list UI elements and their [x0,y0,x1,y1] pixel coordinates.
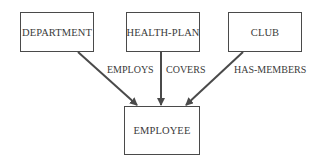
relationship-covers-label: COVERS [166,64,205,75]
edge-has-members [186,52,243,105]
entity-club-label: CLUB [251,27,279,38]
relationship-employs-label: EMPLOYS [107,64,154,75]
entity-club: CLUB [228,12,302,52]
relationship-has-members-label: HAS-MEMBERS [234,64,306,75]
entity-health-plan: HEALTH-PLAN [126,12,200,52]
entity-department-label: DEPARTMENT [22,27,92,38]
entity-department: DEPARTMENT [20,12,94,52]
entity-employee-label: EMPLOYEE [134,125,191,136]
entity-employee: EMPLOYEE [124,106,200,155]
entity-health-plan-label: HEALTH-PLAN [126,27,199,38]
edge-employs [78,52,137,105]
